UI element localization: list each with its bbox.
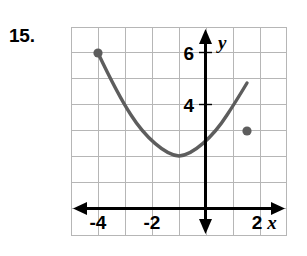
- curve-endpoint-left: [93, 48, 102, 57]
- x-axis-label: x: [266, 212, 277, 233]
- y-tick-label-4: 4: [183, 95, 194, 116]
- problem-number: 15.: [9, 26, 35, 45]
- curve-endpoint-right: [242, 126, 251, 135]
- y-axis-label: y: [216, 32, 227, 53]
- graph-figure: 6 4 -4 -2 2 y x: [71, 27, 287, 236]
- x-tick-label-2: 2: [252, 212, 263, 233]
- coordinate-plane-graph: 6 4 -4 -2 2 y x: [71, 27, 287, 236]
- x-tick-label-neg2: -2: [144, 212, 161, 233]
- x-tick-label-neg4: -4: [90, 212, 107, 233]
- y-tick-label-6: 6: [183, 43, 194, 64]
